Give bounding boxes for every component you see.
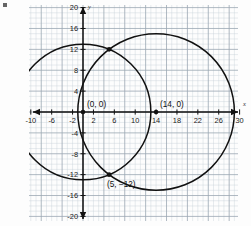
y-tick-label: 8 [74,66,78,75]
point-center-origin [81,110,86,115]
point-intersection-lower [107,172,112,177]
x-tick-label: 30 [235,116,243,125]
y-tick-label: -20 [67,212,78,221]
y-tick-label: 20 [70,3,78,12]
y-tick-label: 16 [70,24,78,33]
y-tick-label: -12 [67,170,78,179]
point-label-intersection-lower: (5, −12) [107,180,136,189]
x-tick-label: 10 [131,116,139,125]
y-axis-label: y [87,3,91,10]
x-tick-label: 6 [112,116,116,125]
x-tick-label: 14 [152,116,160,125]
coordinate-plane: -10-6-226101418222630 20161284-4-8-12-16… [0,0,251,226]
x-tick-label: -10 [25,116,36,125]
y-tick-label: -16 [67,191,78,200]
x-tick-label: 18 [173,116,181,125]
graph-figure: -10-6-226101418222630 20161284-4-8-12-16… [0,0,251,226]
y-tick-label: 12 [70,45,78,54]
point-intersection-upper [107,47,112,52]
point-label-center-shifted: (14, 0) [160,100,184,109]
x-tick-label: -2 [69,116,76,125]
y-tick-label: -8 [71,150,78,159]
y-tick-label: 4 [74,87,78,96]
x-tick-label: -6 [48,116,55,125]
x-tick-label: 26 [215,116,223,125]
x-tick-label: 2 [91,116,95,125]
point-center-shifted [154,110,159,115]
y-tick-label: -4 [71,129,78,138]
x-tick-label: 22 [194,116,202,125]
x-axis-label: x [242,100,246,107]
point-label-center-origin: (0, 0) [87,100,106,109]
